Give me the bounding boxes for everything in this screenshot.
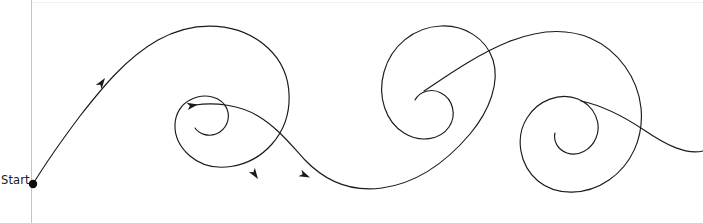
arrowhead-1	[96, 76, 108, 89]
arrowhead-3	[249, 168, 261, 181]
arrowhead-2	[187, 101, 199, 110]
start-label: Start.	[1, 175, 33, 187]
arrowhead-4	[298, 170, 311, 181]
spiral-segment-4	[581, 101, 703, 152]
figure-canvas: Start.	[0, 0, 703, 223]
spiral-segment-1	[33, 26, 289, 184]
spiral-segment-3	[424, 32, 641, 193]
spiral-figure-svg	[0, 0, 703, 223]
